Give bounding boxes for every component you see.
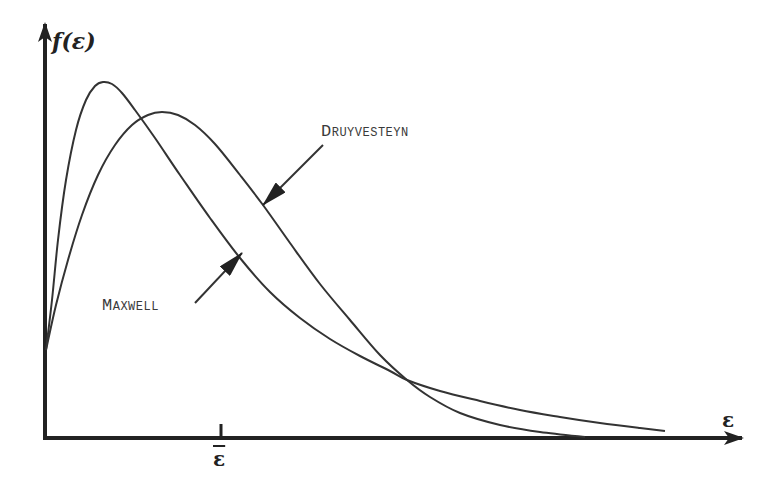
y-axis-label: f(ε) bbox=[52, 28, 96, 54]
druyvesteyn-label: Druyvesteyn bbox=[321, 122, 409, 141]
maxwell-pointer-arrow bbox=[195, 253, 242, 303]
mean-energy-label-text: ε bbox=[213, 447, 225, 471]
x-axis-label: ε bbox=[722, 408, 734, 432]
druyvesteyn-pointer-arrow bbox=[263, 145, 323, 205]
plot-area bbox=[0, 0, 769, 503]
chart-canvas: f(ε) ε ε Druyvesteyn Maxwell bbox=[0, 0, 769, 503]
mean-energy-label: ε bbox=[213, 447, 225, 471]
x-axis-label-text: ε bbox=[722, 408, 734, 432]
druyvesteyn-curve bbox=[46, 112, 585, 437]
maxwell-label: Maxwell bbox=[102, 296, 159, 315]
y-axis-label-text: f(ε) bbox=[52, 28, 96, 54]
